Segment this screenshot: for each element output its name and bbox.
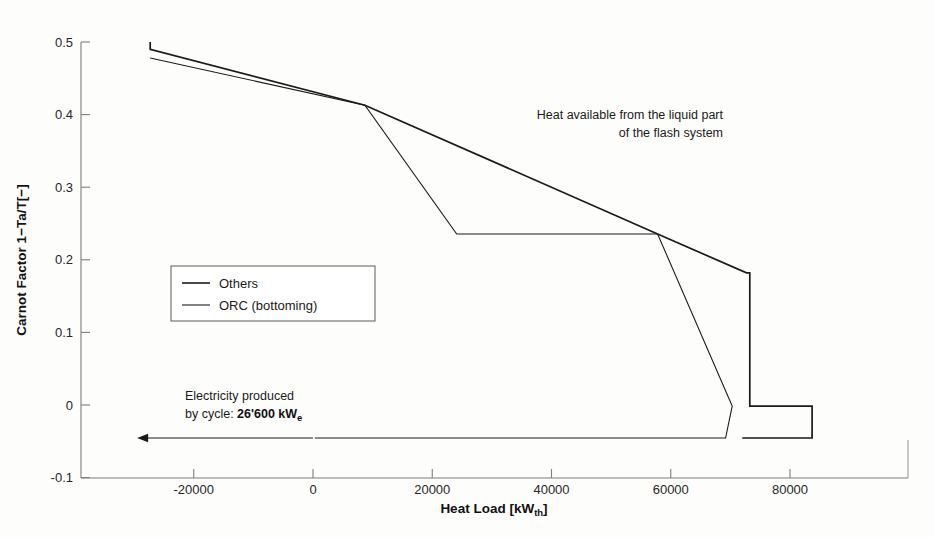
heat-note-line1: Heat available from the liquid part (537, 108, 724, 122)
electricity-note-line1: Electricity produced (185, 389, 294, 403)
x-axis-ticks: -20000020000400006000080000 (174, 469, 809, 497)
chart-figure: -0.100.10.20.30.40.5 -200000200004000060… (0, 0, 934, 537)
y-tick-label: 0.2 (55, 252, 73, 267)
electricity-note-line2: by cycle: 26'600 kWe (185, 407, 302, 423)
annotation-electricity: Electricity produced by cycle: 26'600 kW… (185, 389, 302, 423)
x-tick-label: 60000 (653, 482, 689, 497)
data-series-layer (150, 42, 812, 438)
electricity-flow-arrow (137, 434, 313, 442)
x-axis-title: Heat Load [kWth] (440, 501, 547, 518)
y-axis-title: Carnot Factor 1−Ta/T[−] (14, 184, 29, 335)
annotation-heat-available: Heat available from the liquid part of t… (537, 108, 724, 140)
x-tick-label: -20000 (174, 482, 214, 497)
y-tick-label: 0.5 (55, 35, 73, 50)
x-tick-label: 40000 (533, 482, 569, 497)
y-axis-ticks: -0.100.10.20.30.40.5 (51, 35, 90, 486)
heat-note-line2: of the flash system (619, 126, 723, 140)
y-tick-label: -0.1 (51, 470, 73, 485)
chart-canvas: -0.100.10.20.30.40.5 -200000200004000060… (0, 0, 934, 537)
y-tick-label: 0.1 (55, 325, 73, 340)
legend-label-others: Others (219, 276, 259, 291)
x-tick-label: 0 (309, 482, 316, 497)
y-tick-label: 0.4 (55, 107, 73, 122)
chart-legend[interactable]: Others ORC (bottoming) (171, 266, 375, 321)
y-tick-label: 0 (66, 398, 73, 413)
x-tick-label: 20000 (414, 482, 450, 497)
legend-label-orc: ORC (bottoming) (219, 298, 317, 313)
x-tick-label: 80000 (772, 482, 808, 497)
arrow-head (137, 434, 148, 442)
y-tick-label: 0.3 (55, 180, 73, 195)
series-line-others (150, 42, 812, 438)
